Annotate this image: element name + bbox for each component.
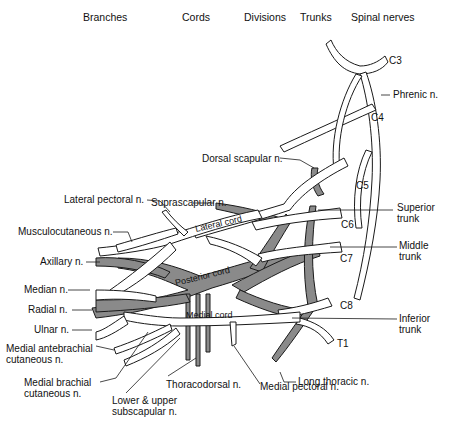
- label-medial-antebrachial: Medial antebrachial cutaneous n.: [6, 343, 93, 365]
- medial-pectoral-nerve-shape: [230, 322, 236, 346]
- label-c7: C7: [340, 253, 353, 264]
- label-lateral-pectoral: Lateral pectoral n.: [64, 194, 144, 205]
- label-long-thoracic: Long thoracic n.: [298, 376, 369, 387]
- label-c3: C3: [389, 55, 402, 66]
- medial-cord-label: Medial cord: [186, 310, 233, 320]
- label-c6: C6: [341, 219, 354, 230]
- label-musculocutaneous: Musculocutaneous n.: [18, 226, 113, 237]
- label-middle-trunk: Middle trunk: [399, 240, 428, 262]
- c4-nerve-shape: [280, 104, 376, 152]
- label-ulnar: Ulnar n.: [34, 324, 69, 335]
- label-medial-brachial: Medial brachial cutaneous n.: [24, 377, 91, 399]
- label-subscapular: Lower & upper subscapular n.: [112, 395, 177, 417]
- label-c5: C5: [356, 180, 369, 191]
- label-radial: Radial n.: [28, 304, 67, 315]
- t1-nerve-shape: [296, 318, 334, 344]
- label-thoracodorsal: Thoracodorsal n.: [166, 379, 241, 390]
- subscapular-strand-1: [186, 294, 190, 360]
- label-suprascapular: Suprascapular n.: [151, 197, 227, 208]
- label-phrenic: Phrenic n.: [393, 89, 438, 100]
- ulnar-nerve-shape: [96, 316, 128, 340]
- label-superior-trunk: Superior trunk: [397, 202, 435, 224]
- label-dorsal-scapular: Dorsal scapular n.: [202, 153, 283, 164]
- c3-nerve-shape: [326, 40, 388, 74]
- label-c4: C4: [371, 112, 384, 123]
- middle-trunk-anterior-division: [206, 236, 262, 266]
- label-t1: T1: [337, 338, 349, 349]
- label-inferior-trunk: Inferior trunk: [399, 313, 430, 335]
- label-c8: C8: [340, 300, 353, 311]
- label-median: Median n.: [24, 284, 68, 295]
- label-axillary: Axillary n.: [40, 256, 83, 267]
- thoracodorsal-strand: [196, 294, 200, 366]
